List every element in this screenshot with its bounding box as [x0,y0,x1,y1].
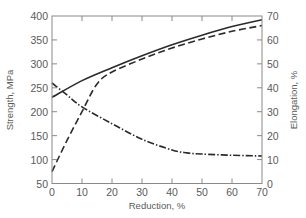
plot-frame [52,16,262,184]
series-layer [52,20,262,172]
y2-tick-label: 70 [267,10,279,22]
y-tick-label: 200 [30,106,48,118]
y-tick-label: 150 [30,130,48,142]
y2-axis-title: Elongation, % [288,70,299,129]
chart: 0102030405060705010015020025030035040001… [0,0,306,218]
y-tick-label: 350 [30,34,48,46]
y2-tick-label: 10 [267,154,279,166]
x-tick-label: 30 [136,186,148,198]
x-tick-label: 40 [166,186,178,198]
x-axis-title: Reduction, % [129,200,186,211]
y2-tick-label: 50 [267,58,279,70]
y2-tick-label: 40 [267,82,279,94]
y-tick-label: 300 [30,58,48,70]
y-tick-label: 400 [30,10,48,22]
x-tick-label: 10 [76,186,88,198]
ticks-layer [52,16,262,184]
y-tick-label: 100 [30,154,48,166]
x-tick-label: 20 [106,186,118,198]
yield-strength-curve [52,26,262,172]
x-tick-label: 50 [196,186,208,198]
x-tick-label: 60 [226,186,238,198]
y-axis-title: Strength, MPa [4,69,15,130]
y2-tick-label: 30 [267,106,279,118]
y-tick-label: 50 [36,178,48,190]
y2-tick-label: 20 [267,130,279,142]
tick-labels: 0102030405060705010015020025030035040001… [30,10,278,198]
y-tick-label: 250 [30,82,48,94]
x-tick-label: 0 [49,186,55,198]
elongation-curve [52,83,262,156]
y2-tick-label: 0 [267,178,273,190]
y2-tick-label: 60 [267,34,279,46]
